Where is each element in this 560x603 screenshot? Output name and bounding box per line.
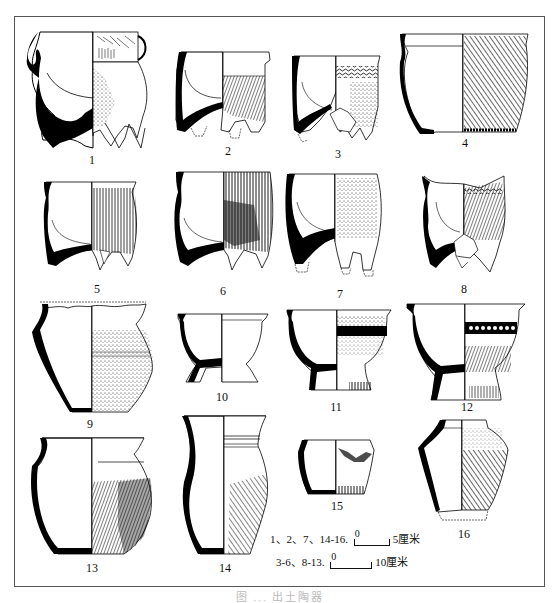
- vessel-7-label: 7: [325, 287, 355, 302]
- vessel-12-pedestal-bowl-drawing: [405, 302, 530, 402]
- vessel-1-label: 1: [77, 153, 107, 168]
- vessel-4-jar-drawing: [398, 32, 533, 140]
- vessel-14-bottle-drawing: [180, 414, 270, 559]
- scale-large-items: 3-6、8-13.: [276, 556, 325, 568]
- scale-small-zero: 0: [355, 528, 360, 539]
- scale-bar-large: 3-6、8-13. 0 10厘米: [276, 553, 408, 569]
- vessel-2-tripod-drawing: [173, 50, 283, 140]
- vessel-15-label: 15: [322, 499, 352, 514]
- scale-small-bar: 0: [354, 539, 390, 546]
- figure-caption: 图 ... 出土陶器: [0, 588, 560, 603]
- vessel-6-tripod-drawing: [174, 170, 279, 280]
- scale-large-unit: 厘米: [386, 556, 408, 568]
- vessel-12-label: 12: [452, 400, 482, 415]
- vessel-5-label: 5: [82, 282, 112, 297]
- vessel-2-label: 2: [213, 144, 243, 159]
- vessel-8-label: 8: [449, 282, 479, 297]
- vessel-1-tripod-jar-drawing: [25, 28, 165, 153]
- scale-small-unit: 厘米: [398, 533, 420, 545]
- scale-large-zero: 0: [331, 551, 336, 562]
- vessel-15-jar-drawing: [296, 438, 376, 498]
- vessel-11-label: 11: [321, 400, 351, 415]
- vessel-16-jar-drawing: [416, 418, 526, 528]
- vessel-14-label: 14: [210, 561, 240, 576]
- vessel-7-tripod-drawing: [283, 172, 388, 277]
- vessel-10-pedestal-bowl-drawing: [176, 312, 271, 387]
- vessel-3-label: 3: [323, 147, 353, 162]
- vessel-13-jar-drawing: [28, 436, 158, 558]
- vessel-3-tripod-drawing: [290, 52, 390, 147]
- vessel-5-tripod-drawing: [42, 180, 142, 280]
- vessel-11-pedestal-bowl-drawing: [285, 308, 395, 393]
- vessel-9-label: 9: [75, 417, 105, 432]
- vessel-4-label: 4: [450, 136, 480, 151]
- vessel-9-jar-drawing: [28, 300, 158, 415]
- scale-bar-small: 1、2、7、14-16. 0 5厘米: [270, 530, 420, 546]
- vessel-16-label: 16: [449, 527, 479, 542]
- vessel-13-label: 13: [77, 561, 107, 576]
- vessel-8-tripod-drawing: [420, 172, 515, 277]
- scale-small-items: 1、2、7、14-16.: [270, 533, 348, 545]
- scale-large-bar: 0: [330, 562, 372, 569]
- scale-large-max: 10: [375, 556, 386, 568]
- vessel-6-label: 6: [208, 284, 238, 299]
- vessel-10-label: 10: [207, 390, 237, 405]
